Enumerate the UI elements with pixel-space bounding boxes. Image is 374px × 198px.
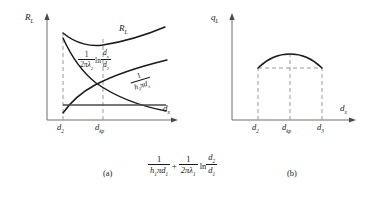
panel-a-x-axis-label: dx	[163, 104, 170, 115]
panel-b-tick-dkp: dkp	[282, 123, 291, 134]
panel-a-caption: (a)	[103, 168, 112, 178]
panel-b-y-axis-label: qL	[211, 13, 219, 24]
panel-b-gridlines	[258, 54, 322, 120]
panel-b-axes	[229, 13, 356, 123]
panel-a-y-axis-label: RL	[25, 13, 34, 24]
panel-a-tick-dkp: dkp	[95, 123, 104, 134]
curve-label-conduction-formula: 1 2πλ2 ln dx d2	[78, 48, 111, 70]
curve-total-resistance	[63, 27, 165, 46]
caption-formula: 1 h1πd1 + 1 2πλ1 ln d2 d1	[148, 152, 217, 176]
panel-b-tick-d3: d3	[317, 123, 324, 134]
curve-label-total-resistance: RL	[119, 24, 128, 35]
panel-b-x-axis-label: dx	[340, 104, 347, 115]
panel-a-tick-d2: d2	[57, 123, 64, 134]
panel-b-tick-d2: d2	[252, 123, 259, 134]
thermal-resistance-figure: RL dx d2 dkp RL 1 2πλ2 ln dx d2 1 h3πdx …	[0, 0, 374, 198]
panel-b-caption: (b)	[287, 168, 297, 178]
